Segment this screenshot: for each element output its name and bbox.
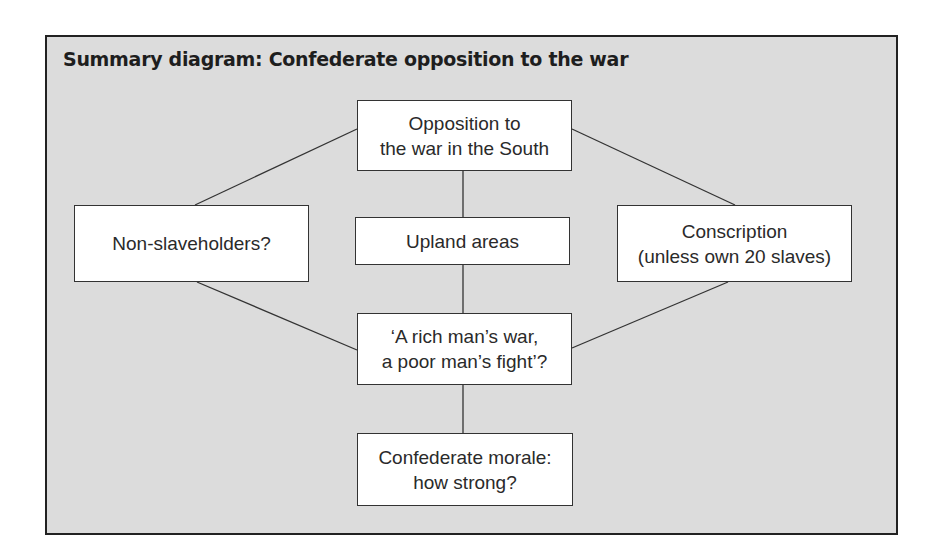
node-upland-areas: Upland areas xyxy=(355,217,570,265)
node-text: Opposition to xyxy=(380,111,549,136)
edge-top-right xyxy=(572,129,735,205)
node-confederate-morale: Confederate morale: how strong? xyxy=(357,433,573,506)
node-text: Upland areas xyxy=(406,229,519,254)
node-text: ‘A rich man’s war, xyxy=(382,324,547,349)
node-text: a poor man’s fight’? xyxy=(382,349,547,374)
node-rich-mans-war: ‘A rich man’s war, a poor man’s fight’? xyxy=(357,313,572,385)
node-opposition-south: Opposition to the war in the South xyxy=(357,100,572,171)
node-text: Confederate morale: xyxy=(378,445,551,470)
node-text: Conscription xyxy=(638,219,831,244)
node-non-slaveholders: Non-slaveholders? xyxy=(74,205,309,282)
node-text: Non-slaveholders? xyxy=(112,231,270,256)
edge-left-rich xyxy=(197,282,357,350)
edge-right-rich xyxy=(572,282,728,348)
node-conscription: Conscription (unless own 20 slaves) xyxy=(617,205,852,282)
node-text: how strong? xyxy=(378,470,551,495)
node-text: (unless own 20 slaves) xyxy=(638,244,831,269)
edge-top-left xyxy=(195,129,357,205)
node-text: the war in the South xyxy=(380,136,549,161)
